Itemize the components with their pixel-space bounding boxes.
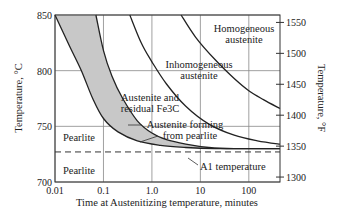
annotation-pearlite-lower: Pearlite	[63, 165, 95, 176]
x-axis-label: Time at Austenitizing temperature, minut…	[76, 197, 258, 208]
y-right-axis-label: Temperature, °F	[316, 64, 327, 132]
leader-a1	[188, 158, 198, 165]
annotation-austenite-forming-2: from pearlite	[163, 130, 218, 141]
y-tick-label: 800	[37, 66, 52, 77]
y-tick-label: 750	[37, 121, 52, 132]
y-right-tick-label: 1400	[286, 110, 306, 121]
y-tick-label: 850	[37, 10, 52, 21]
x-tick-label: 0.1	[97, 185, 110, 196]
annotation-homogeneous-2: austenite	[225, 34, 263, 45]
x-axis-ticks: 0.010.11.010100	[46, 185, 256, 196]
y-right-tick-label: 1350	[286, 141, 306, 152]
annotation-a1: A1 temperature	[200, 161, 266, 172]
y-axis-label: Temperature, °C	[13, 63, 24, 132]
annotation-inhomogeneous-2: austenite	[180, 70, 218, 81]
chart: 0.010.11.010100 700750800850 13001350140…	[0, 0, 338, 220]
annotation-homogeneous: Homogeneous	[214, 23, 275, 34]
y-right-tick-label: 1300	[286, 172, 306, 183]
x-tick-label: 100	[241, 185, 256, 196]
annotation-pearlite-upper: Pearlite	[63, 132, 95, 143]
x-tick-label: 1.0	[146, 185, 159, 196]
annotation-inhomogeneous: Inhomogeneous	[165, 59, 232, 70]
annotation-austenite-fe3c: Austenite and	[121, 92, 180, 103]
y-axis-ticks: 700750800850	[37, 10, 52, 188]
y-right-tick-label: 1500	[286, 48, 306, 59]
y-right-tick-label: 1550	[286, 17, 306, 28]
annotation-austenite-fe3c-2: residual Fe3C	[121, 103, 180, 114]
y-right-tick-label: 1450	[286, 79, 306, 90]
y-tick-label: 700	[37, 177, 52, 188]
annotation-austenite-forming: Austenite forming	[147, 119, 224, 130]
x-tick-label: 10	[195, 185, 205, 196]
